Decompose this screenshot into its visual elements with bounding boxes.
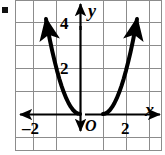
- origin-label: O: [85, 118, 97, 134]
- y-axis-label: y: [88, 2, 96, 20]
- x-tick-label-neg2: –2: [22, 120, 39, 137]
- y-tick-label-2: 2: [60, 60, 69, 77]
- x-axis-label: x: [145, 101, 154, 119]
- parabola-figure: 4 2 –2 2 y x O: [0, 0, 165, 155]
- x-tick-label-2: 2: [121, 120, 130, 137]
- parabola-right-branch: [103, 19, 137, 114]
- y-tick-label-4: 4: [60, 15, 69, 32]
